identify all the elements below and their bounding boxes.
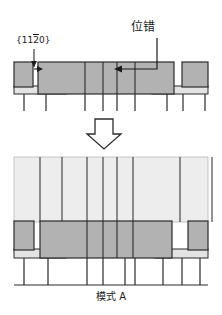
before-gray-block-right [182, 62, 208, 87]
figure-caption: 模式 A [0, 292, 222, 302]
miller-suffix: 0} [39, 35, 50, 45]
before-substrate-ticks [24, 94, 205, 111]
after-gray-block-center [40, 221, 172, 258]
after-gray-block-right [188, 221, 208, 250]
after-substrate-ticks [14, 258, 208, 285]
dislocation-label: 位错 [131, 21, 155, 33]
miller-index-label: {1120} [16, 36, 50, 45]
after-gray-block-left [14, 221, 34, 250]
after-panel [14, 157, 212, 285]
after-pale-block [14, 157, 208, 222]
figure-container: {1120} 位错 模式 A [0, 0, 222, 315]
before-gray-block-center [38, 62, 174, 94]
before-panel [14, 62, 208, 111]
miller-prefix: {11 [16, 35, 33, 45]
diagram-svg [0, 0, 222, 315]
before-gray-block-left [14, 62, 33, 87]
down-arrow-icon [87, 119, 121, 149]
